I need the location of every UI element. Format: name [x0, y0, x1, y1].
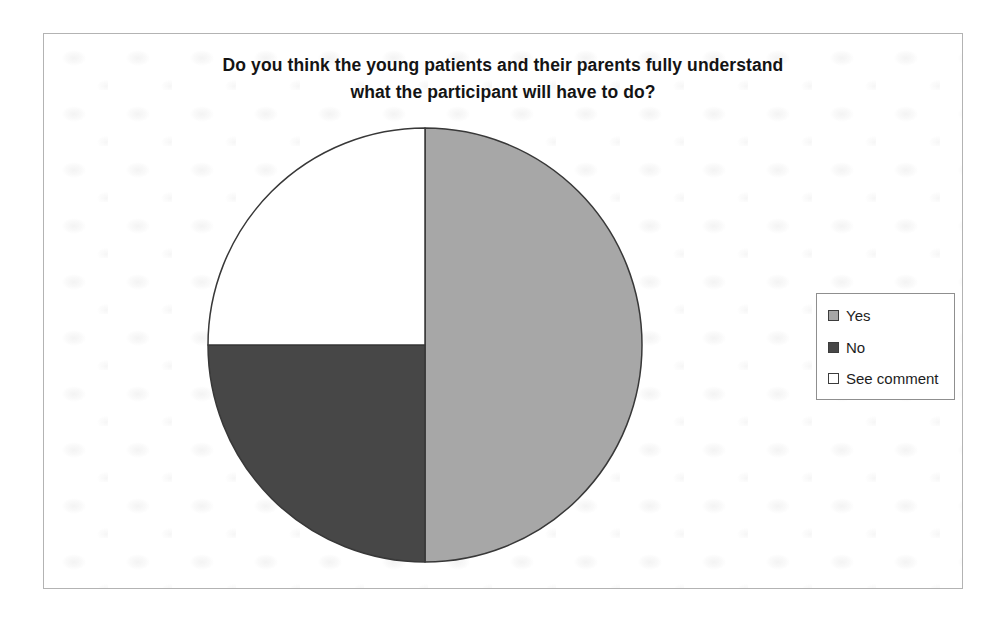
legend-label-see-comment: See comment	[846, 370, 939, 387]
chart-title: Do you think the young patients and thei…	[44, 52, 962, 106]
pie-slice-yes	[425, 128, 642, 562]
pie-slice-see-comment	[208, 128, 425, 345]
legend-swatch-no	[828, 342, 839, 353]
legend: Yes No See comment	[816, 293, 955, 400]
pie-chart	[205, 125, 645, 565]
legend-label-yes: Yes	[846, 307, 870, 324]
pie-slice-no	[208, 345, 425, 562]
scanned-chart-page: Do you think the young patients and thei…	[0, 0, 1003, 617]
chart-area: Do you think the young patients and thei…	[43, 33, 963, 589]
legend-item-no: No	[828, 339, 943, 356]
legend-label-no: No	[846, 339, 865, 356]
legend-item-yes: Yes	[828, 307, 943, 324]
chart-title-line-2: what the participant will have to do?	[44, 79, 962, 106]
legend-swatch-see-comment	[828, 373, 839, 384]
legend-item-see-comment: See comment	[828, 370, 943, 387]
legend-swatch-yes	[828, 310, 839, 321]
chart-title-line-1: Do you think the young patients and thei…	[44, 52, 962, 79]
